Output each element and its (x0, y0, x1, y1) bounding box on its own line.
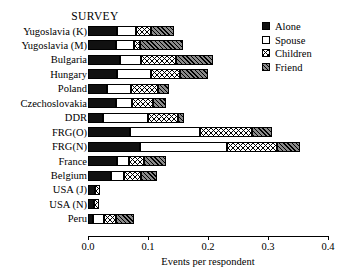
bar-segment-friend (140, 40, 184, 50)
bar-segment-alone (88, 185, 95, 195)
category-label: France (0, 156, 87, 167)
bar-segment-spouse (120, 55, 141, 65)
x-axis-tick-label: 0.1 (128, 241, 168, 252)
category-label: Belgium (0, 170, 87, 181)
bar-segment-alone (88, 127, 130, 137)
diagonal-hatch-swatch-icon (262, 63, 270, 71)
x-axis-tick-label: 0.3 (248, 241, 288, 252)
bar-segment-children (124, 171, 141, 181)
category-label: USA (J) (0, 184, 87, 195)
category-label: FRG(O) (0, 127, 87, 138)
chart-title: SURVEY (40, 10, 150, 22)
legend-item-friend: Friend (262, 57, 312, 71)
bar-segment-children (129, 156, 144, 166)
survey-stacked-bar-chart: SURVEY Events per respondent Alone Spous… (0, 0, 361, 279)
category-label: FRG(N) (0, 141, 87, 152)
bar-segment-alone (88, 156, 117, 166)
legend-item-alone: Alone (262, 16, 312, 30)
bar-segment-spouse (116, 98, 132, 108)
bar-segment-friend (151, 26, 174, 36)
bar-segment-spouse (116, 40, 134, 50)
bar-segment-spouse (117, 156, 129, 166)
category-label: Hungary (0, 69, 87, 80)
bar-segment-children (151, 69, 180, 79)
bar-segment-friend (178, 113, 184, 123)
bar-segment-spouse (103, 113, 148, 123)
bar-segment-alone (88, 84, 107, 94)
bar-segment-friend (144, 156, 166, 166)
x-axis-tick (268, 236, 269, 240)
bar-segment-friend (158, 84, 169, 94)
bar-segment-spouse (117, 26, 136, 36)
x-axis-tick (328, 236, 329, 240)
bar-segment-alone (88, 142, 140, 152)
bar-segment-alone (88, 98, 116, 108)
bar-segment-children (131, 84, 158, 94)
bar-segment-children (141, 55, 176, 65)
bar-segment-children (227, 142, 277, 152)
legend-item-spouse: Spouse (262, 30, 312, 44)
category-label: Peru (0, 213, 87, 224)
bar-segment-children (132, 98, 154, 108)
bar-segment-alone (88, 55, 120, 65)
category-label: Bulgaria (0, 54, 87, 65)
bar-segment-friend (180, 69, 208, 79)
legend-item-children: Children (262, 43, 312, 57)
bar-segment-spouse (140, 142, 227, 152)
chart-legend: Alone Spouse Children Friend (262, 16, 312, 70)
bar-segment-spouse (107, 84, 131, 94)
bar-segment-spouse (130, 127, 200, 137)
bar-segment-spouse (117, 69, 151, 79)
x-axis-tick (148, 236, 149, 240)
x-axis-tick-label: 0.4 (308, 241, 348, 252)
bar-segment-spouse (93, 214, 104, 224)
bar-segment-friend (153, 98, 166, 108)
bar-segment-alone (88, 171, 111, 181)
category-label: Czechoslovakia (0, 98, 87, 109)
bar-segment-alone (88, 69, 117, 79)
bar-segment-children (104, 214, 116, 224)
category-label: Poland (0, 83, 87, 94)
bar-segment-children (136, 26, 151, 36)
x-axis-tick-label: 0.0 (68, 241, 108, 252)
bar-segment-friend (116, 214, 134, 224)
x-axis-tick (208, 236, 209, 240)
bar-segment-spouse (111, 171, 124, 181)
bar-segment-alone (88, 26, 117, 36)
bar-segment-alone (88, 40, 116, 50)
legend-label-friend: Friend (275, 61, 302, 72)
x-axis-title: Events per respondent (88, 256, 328, 267)
bar-segment-friend (252, 127, 272, 137)
category-label: USA (N) (0, 199, 87, 210)
bar-segment-friend (277, 142, 300, 152)
category-label: DDR (0, 112, 87, 123)
category-label: Yugoslavia (M) (0, 40, 87, 51)
bar-segment-friend (141, 171, 157, 181)
bar-segment-children (200, 127, 252, 137)
bar-segment-children (94, 199, 99, 209)
bar-segment-alone (88, 113, 103, 123)
bar-segment-friend (176, 55, 213, 65)
x-axis-tick-label: 0.2 (188, 241, 228, 252)
x-axis-tick (88, 236, 89, 240)
bar-segment-children (95, 185, 100, 195)
bar-segment-children (148, 113, 178, 123)
category-label: Yugoslavia (K) (0, 26, 87, 37)
